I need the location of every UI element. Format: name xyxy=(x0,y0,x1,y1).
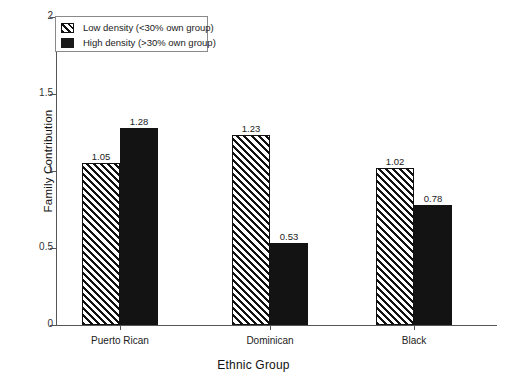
bar-chart: Family Contribution 2 1.5 1 0.5 0 1.05 xyxy=(0,0,507,382)
x-tick-dominican xyxy=(270,325,271,330)
legend: Low density (<30% own group) High densit… xyxy=(55,16,208,52)
bar-puerto-rican-high: 1.28 xyxy=(120,128,158,325)
x-axis-title: Ethnic Group xyxy=(0,358,507,372)
legend-item-high-density: High density (>30% own group) xyxy=(61,36,202,49)
bar-value-puerto-rican-high: 1.28 xyxy=(130,116,149,127)
y-tick-label-0: 0 xyxy=(47,318,53,329)
bar-puerto-rican-low: 1.05 xyxy=(82,163,120,325)
bar-value-dominican-low: 1.23 xyxy=(242,123,261,134)
bar-black-high: 0.78 xyxy=(414,205,452,325)
y-tick-label-1: 1 xyxy=(47,164,53,175)
y-axis-line xyxy=(56,17,57,326)
y-tick-label-2: 2 xyxy=(47,10,53,21)
y-tick-label-0-5: 0.5 xyxy=(39,241,53,252)
legend-label-high-density: High density (>30% own group) xyxy=(83,37,216,48)
y-tick-label-1-5: 1.5 xyxy=(39,87,53,98)
x-tick-label-black: Black xyxy=(402,335,426,346)
bar-dominican-high: 0.53 xyxy=(270,243,308,325)
plot-area: 2 1.5 1 0.5 0 1.05 1.28 Puerto Rican 1. xyxy=(56,17,497,325)
bar-black-low: 1.02 xyxy=(376,168,414,325)
legend-item-low-density: Low density (<30% own group) xyxy=(61,21,202,34)
x-tick-black xyxy=(414,325,415,330)
bar-dominican-low: 1.23 xyxy=(232,135,270,325)
bar-value-black-low: 1.02 xyxy=(386,156,405,167)
x-axis-line xyxy=(56,325,497,326)
x-tick-puerto-rican xyxy=(120,325,121,330)
x-tick-label-dominican: Dominican xyxy=(246,335,293,346)
bar-value-black-high: 0.78 xyxy=(424,193,443,204)
legend-swatch-solid-icon xyxy=(61,38,74,48)
legend-label-low-density: Low density (<30% own group) xyxy=(83,22,214,33)
bar-value-dominican-high: 0.53 xyxy=(280,231,299,242)
bar-value-puerto-rican-low: 1.05 xyxy=(92,151,111,162)
x-tick-label-puerto-rican: Puerto Rican xyxy=(91,335,149,346)
legend-swatch-hatch-icon xyxy=(61,23,74,33)
